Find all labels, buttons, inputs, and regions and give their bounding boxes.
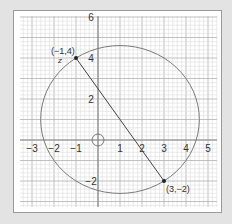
point-marker xyxy=(74,56,78,60)
x-tick-label: 3 xyxy=(161,143,167,154)
x-tick-label: 2 xyxy=(139,143,145,154)
point-label: (−1,4) xyxy=(51,46,75,56)
y-tick-label: 2 xyxy=(88,94,94,105)
coordinate-plane: −3−2−112345642−2(−1,4)z(3,−2) xyxy=(0,0,232,224)
x-tick-label: −2 xyxy=(48,143,60,154)
x-tick-label: 4 xyxy=(183,143,189,154)
y-tick-label: −2 xyxy=(85,176,97,187)
point-label: (3,−2) xyxy=(166,184,190,194)
y-tick-label: 6 xyxy=(88,12,94,23)
x-tick-label: −3 xyxy=(26,143,38,154)
y-tick-label: 4 xyxy=(88,53,94,64)
x-tick-label: 1 xyxy=(117,143,123,154)
grid xyxy=(20,16,217,207)
point-sublabel: z xyxy=(57,56,62,65)
point-marker xyxy=(162,179,166,183)
x-tick-label: 5 xyxy=(205,143,211,154)
x-tick-label: −1 xyxy=(70,143,82,154)
